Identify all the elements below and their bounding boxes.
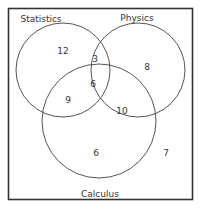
calculus-label: Calculus <box>81 189 119 199</box>
statistics-circle <box>16 23 110 117</box>
region-all-three: 6 <box>90 79 96 89</box>
calculus-circle <box>42 64 156 178</box>
region-statistics-physics: 3 <box>92 54 98 64</box>
region-outside: 7 <box>163 148 169 158</box>
venn-diagram: Statistics Physics Calculus 12 3 8 6 9 1… <box>0 0 203 210</box>
statistics-label: Statistics <box>20 14 61 24</box>
region-physics-calculus: 10 <box>116 106 128 116</box>
region-statistics-only: 12 <box>57 46 68 56</box>
region-statistics-calculus: 9 <box>65 95 71 105</box>
physics-circle <box>91 23 185 117</box>
region-physics-only: 8 <box>144 62 150 72</box>
region-calculus-only: 6 <box>93 148 99 158</box>
physics-label: Physics <box>120 13 154 23</box>
universal-set-frame <box>9 9 193 200</box>
